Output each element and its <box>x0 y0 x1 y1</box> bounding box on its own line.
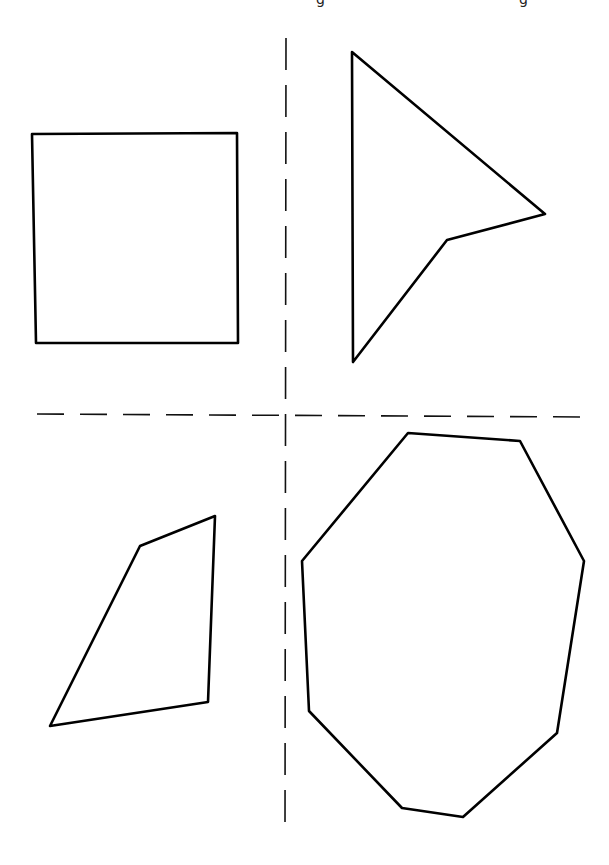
square-shape <box>32 133 238 343</box>
shapes-diagram <box>0 0 609 865</box>
horizontal-dashed-divider <box>37 414 585 417</box>
octagon-shape <box>302 433 584 817</box>
arrow-shape <box>352 52 545 362</box>
quadrilateral-shape <box>50 516 215 726</box>
vertical-dashed-divider <box>285 38 286 830</box>
